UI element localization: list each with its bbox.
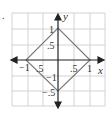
y-tick-neg-1: −.5 [42,87,55,98]
y-tick-neg-half: −1 [46,72,57,83]
x-tick-1: 1 [87,63,92,74]
x-tick-neg-1: −1 [19,62,30,73]
x-tick-half: .5 [70,63,78,74]
problem-marker: . [2,10,5,21]
x-axis-label: x [97,64,103,76]
x-tick-neg-half: .5 [36,63,44,74]
y-tick-1: 1 [49,24,54,35]
graph: . y x −1 .5 .5 1 1 .5 −1 −.5 [0,0,112,113]
y-axis-label: y [62,10,68,22]
y-tick-half: .5 [47,40,55,51]
